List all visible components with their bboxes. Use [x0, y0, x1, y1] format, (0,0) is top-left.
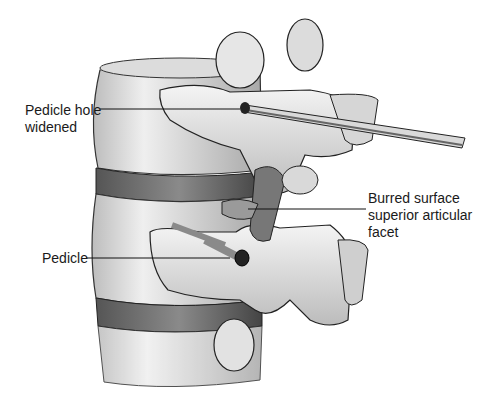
label-pedicle: Pedicle: [42, 250, 88, 267]
label-burred-surface: Burred surface superior articular facet: [368, 190, 472, 241]
label-pedicle-hole-widened: Pedicle hole widened: [25, 102, 101, 136]
